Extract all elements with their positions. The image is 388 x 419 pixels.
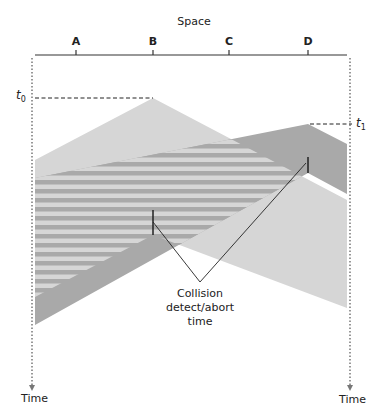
annotation-line-2: detect/abort bbox=[166, 301, 234, 315]
space-axis-title: Space bbox=[177, 15, 211, 28]
t0-label: t0 bbox=[16, 88, 26, 104]
left-time-arrow-icon bbox=[29, 385, 35, 391]
station-a-label: A bbox=[72, 35, 81, 48]
station-b-label: B bbox=[149, 35, 157, 48]
csma-cd-diagram bbox=[0, 0, 388, 419]
collision-annotation: Collision detect/abort time bbox=[166, 287, 234, 329]
t0-label-sub: 0 bbox=[21, 95, 26, 104]
station-d-label: D bbox=[303, 35, 312, 48]
t1-label: t1 bbox=[356, 116, 366, 132]
right-time-arrow-icon bbox=[347, 385, 353, 391]
left-time-label: Time bbox=[21, 392, 48, 405]
t1-label-sub: 1 bbox=[361, 123, 366, 132]
annotation-line-3: time bbox=[166, 315, 234, 329]
annotation-line-1: Collision bbox=[166, 287, 234, 301]
station-c-label: C bbox=[225, 35, 233, 48]
right-time-label: Time bbox=[339, 393, 366, 406]
